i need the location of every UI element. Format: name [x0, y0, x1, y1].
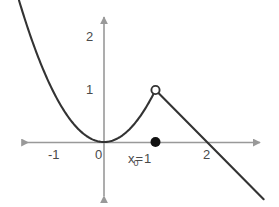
- descending-line: [156, 90, 264, 199]
- function-graph-figure: -1 0 2 1 2 x0=1: [0, 0, 279, 207]
- filled-dot-marker: [151, 137, 161, 147]
- y-tick-label-2: 2: [86, 30, 93, 43]
- parabola-branch-curve: [19, 0, 155, 142]
- x-tick-label-2: 2: [203, 148, 210, 161]
- annotation-equals: =: [136, 151, 144, 166]
- annotation-value: 1: [144, 151, 151, 166]
- plot-canvas: [0, 0, 279, 207]
- y-tick-label-1: 1: [86, 83, 93, 96]
- open-circle-marker: [151, 86, 159, 94]
- x-tick-label-neg1: -1: [48, 148, 60, 161]
- x-naught-annotation: x0=1: [128, 152, 151, 168]
- x-tick-label-0: 0: [95, 148, 102, 161]
